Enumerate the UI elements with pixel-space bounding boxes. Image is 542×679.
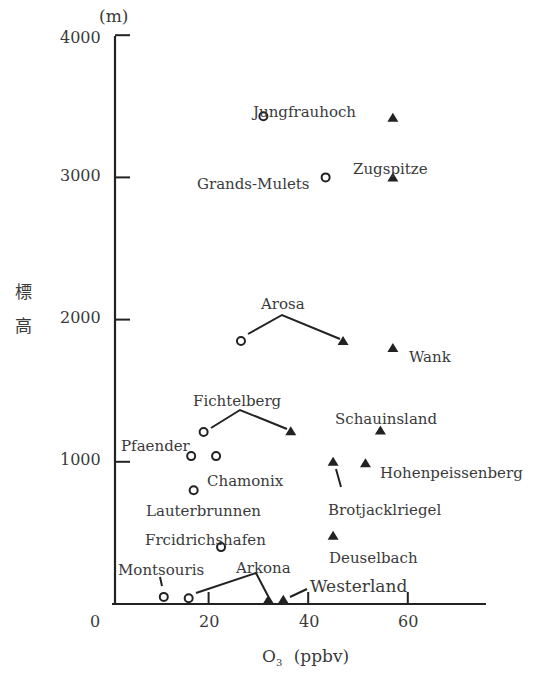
x-axis-label-unit: (ppbv) <box>294 646 350 666</box>
circle-marker <box>212 452 220 460</box>
station-label: Montsouris <box>118 563 204 578</box>
circle-marker <box>237 337 245 345</box>
station-label: Hohenpeissenberg <box>380 466 523 481</box>
station-label: Deuselbach <box>329 551 418 566</box>
x-tick-label-60: 60 <box>398 614 418 630</box>
station-label: Westerland <box>310 578 407 595</box>
y-axis-label-char-2: 高 <box>15 318 32 335</box>
station-label: Pfaender <box>121 439 190 454</box>
scatter-plot <box>0 0 542 679</box>
y-ticks <box>115 35 130 462</box>
triangle-marker <box>285 426 296 435</box>
y-tick-label-1000: 1000 <box>60 452 101 468</box>
station-label: Arosa <box>261 297 305 312</box>
circle-marker <box>322 173 330 181</box>
triangle-marker <box>328 457 339 466</box>
triangle-marker <box>263 595 274 604</box>
station-label: Jungfrauhoch <box>253 105 356 120</box>
station-label: Brotjacklriegel <box>328 503 441 518</box>
station-label: Fichtelberg <box>193 394 281 409</box>
westerland-leader <box>290 589 307 597</box>
circle-marker <box>185 594 193 602</box>
station-label: Zugspitze <box>353 162 428 177</box>
x-tick-label-20: 20 <box>199 614 219 630</box>
triangle-marker <box>387 113 398 122</box>
x-axis-label-sub: 3 <box>276 657 282 668</box>
y-tick-label-2000: 2000 <box>60 310 101 326</box>
y-axis-label-char-1: 標 <box>15 284 32 301</box>
station-label: Lauterbrunnen <box>146 504 261 519</box>
x-axis-label: O3 (ppbv) <box>262 648 349 668</box>
circle-marker <box>160 593 168 601</box>
triangle-marker <box>360 458 371 467</box>
station-label: Wank <box>409 350 451 365</box>
y-tick-label-4000: 4000 <box>60 30 101 46</box>
triangle-marker <box>278 595 289 604</box>
arosa-leader <box>248 315 340 339</box>
fichtelberg-leader <box>211 410 287 429</box>
x-axis-label-main: O <box>262 646 276 666</box>
circle-marker <box>190 486 198 494</box>
station-label: Arkona <box>236 561 291 576</box>
station-label: Chamonix <box>207 474 283 489</box>
triangle-marker <box>338 336 349 345</box>
circle-marker <box>200 428 208 436</box>
station-label: Frcidrichshafen <box>145 533 266 548</box>
brotjacklriegel-leader <box>336 469 341 487</box>
y-unit-label: (m) <box>99 8 128 25</box>
triangle-marker <box>328 531 339 540</box>
x-tick-label-0: 0 <box>90 614 100 630</box>
y-tick-label-3000: 3000 <box>60 168 101 184</box>
triangle-marker <box>387 343 398 352</box>
station-label: Grands-Mulets <box>197 177 310 192</box>
x-tick-label-40: 40 <box>299 614 319 630</box>
station-label: Schauinsland <box>335 412 437 427</box>
